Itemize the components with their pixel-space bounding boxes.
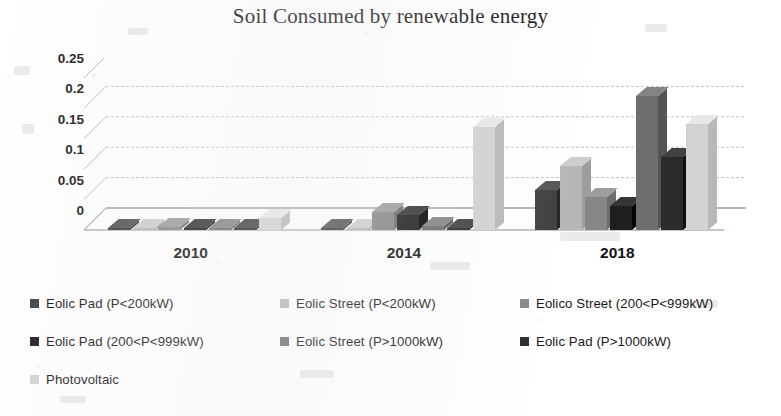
- chart-plot-area: 00.050.10.150.20.25: [0, 58, 781, 253]
- y-axis-tick: 0.25: [28, 51, 84, 66]
- bar: [259, 218, 281, 230]
- legend-item[interactable]: Eolic Street (P<200kW): [280, 296, 436, 311]
- bar-front-face: [259, 218, 281, 230]
- legend-row: Eolic Pad (P<200kW)Eolic Street (P<200kW…: [30, 286, 770, 324]
- bar: [422, 226, 444, 230]
- x-axis-tick: 2014: [297, 244, 510, 262]
- bar: [209, 228, 231, 230]
- bar: [158, 227, 180, 230]
- legend-label: Eolico Street (200<P<999kW): [536, 296, 713, 311]
- bar: [610, 206, 632, 230]
- bar: [447, 228, 469, 230]
- bar-front-face: [535, 190, 557, 230]
- x-axis-tick: 2018: [511, 244, 724, 262]
- bar: [234, 228, 256, 230]
- legend-item[interactable]: Eolico Street (200<P<999kW): [520, 296, 713, 311]
- legend-swatch-icon: [280, 337, 289, 346]
- legend-label: Eolic Street (P<200kW): [296, 296, 436, 311]
- bar-front-face: [234, 228, 256, 230]
- bar-side-face: [708, 116, 717, 230]
- bar: [636, 96, 658, 230]
- bar-front-face: [158, 227, 180, 230]
- bar: [661, 157, 683, 230]
- y-axis-tick: 0.05: [28, 172, 84, 187]
- bar: [184, 228, 206, 230]
- bar-front-face: [473, 127, 495, 230]
- legend-item[interactable]: Photovoltaic: [30, 372, 119, 387]
- legend-swatch-icon: [520, 299, 529, 308]
- legend-item[interactable]: Eolic Pad (P<200kW): [30, 296, 174, 311]
- bar-front-face: [321, 228, 343, 230]
- bar-front-face: [347, 228, 369, 230]
- chart-title: Soil Consumed by renewable energy: [0, 4, 781, 29]
- x-axis-labels: 201020142018: [0, 244, 781, 270]
- legend-label: Photovoltaic: [46, 372, 119, 387]
- y-axis-tick: 0: [28, 203, 84, 218]
- bar: [535, 190, 557, 230]
- legend-item[interactable]: Eolic Pad (200<P<999kW): [30, 334, 204, 349]
- bar: [686, 124, 708, 230]
- legend-swatch-icon: [30, 299, 39, 308]
- legend-swatch-icon: [520, 337, 529, 346]
- y-axis-tick: 0.15: [28, 111, 84, 126]
- legend-label: Eolic Street (P>1000kW): [296, 334, 443, 349]
- bar-front-face: [661, 157, 683, 230]
- y-axis-tick: 0.2: [28, 81, 84, 96]
- legend-label: Eolic Pad (P>1000kW): [536, 334, 671, 349]
- bars-layer: [84, 58, 744, 238]
- bar-front-face: [447, 228, 469, 230]
- bar: [108, 228, 130, 230]
- legend-swatch-icon: [30, 337, 39, 346]
- bar: [372, 212, 394, 230]
- scan-smudge: [128, 28, 148, 35]
- bar-front-face: [397, 215, 419, 230]
- legend-label: Eolic Pad (200<P<999kW): [46, 334, 204, 349]
- legend-item[interactable]: Eolic Pad (P>1000kW): [520, 334, 671, 349]
- bar-front-face: [610, 206, 632, 230]
- legend-row: Eolic Pad (200<P<999kW)Eolic Street (P>1…: [30, 324, 770, 362]
- bar: [473, 127, 495, 230]
- bar: [397, 215, 419, 230]
- bar-side-face: [495, 119, 504, 230]
- bar: [133, 228, 155, 230]
- bar-front-face: [372, 212, 394, 230]
- bar-front-face: [133, 228, 155, 230]
- y-axis: 00.050.10.150.20.25: [22, 58, 84, 228]
- bar-front-face: [636, 96, 658, 230]
- legend-item[interactable]: Eolic Street (P>1000kW): [280, 334, 443, 349]
- bar: [321, 228, 343, 230]
- legend-swatch-icon: [280, 299, 289, 308]
- y-axis-tick: 0.1: [28, 142, 84, 157]
- bar-front-face: [184, 228, 206, 230]
- bar-front-face: [209, 228, 231, 230]
- bar-front-face: [108, 228, 130, 230]
- legend-label: Eolic Pad (P<200kW): [46, 296, 174, 311]
- legend-swatch-icon: [30, 375, 39, 384]
- bar: [585, 197, 607, 230]
- bar-front-face: [686, 124, 708, 230]
- bar: [560, 166, 582, 230]
- legend-row: Photovoltaic: [30, 362, 770, 400]
- chart-legend: Eolic Pad (P<200kW)Eolic Street (P<200kW…: [30, 286, 770, 400]
- bar: [347, 228, 369, 230]
- bar-front-face: [422, 226, 444, 230]
- bar-front-face: [585, 197, 607, 230]
- bar-front-face: [560, 166, 582, 230]
- x-axis-tick: 2010: [84, 244, 297, 262]
